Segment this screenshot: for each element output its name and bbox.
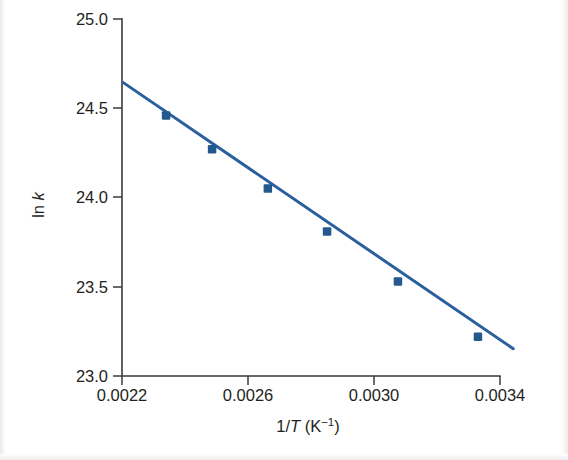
y-tick-label-24.0: 24.0 bbox=[76, 188, 108, 206]
chart-canvas: 25.0 24.5 24.0 23.5 23.0 0.0022 0.0026 0… bbox=[0, 0, 568, 460]
y-axis-label: ln k bbox=[29, 191, 47, 217]
x-axis-label-unit-close: ) bbox=[334, 417, 340, 435]
data-point-marker bbox=[264, 184, 273, 193]
x-axis-label-prefix: 1/ bbox=[276, 417, 290, 435]
data-point-marker bbox=[323, 227, 332, 236]
data-point-marker bbox=[162, 111, 171, 120]
x-tick-label-0.0026: 0.0026 bbox=[223, 386, 273, 404]
data-point-markers bbox=[162, 111, 482, 341]
x-axis-label: 1/T (K−1) bbox=[276, 416, 340, 435]
x-axis-label-unit-open: (K bbox=[300, 417, 321, 435]
x-axis-ticks bbox=[122, 376, 500, 385]
y-tick-labels: 25.0 24.5 24.0 23.5 23.0 bbox=[76, 10, 108, 385]
best-fit-line bbox=[123, 82, 513, 348]
y-axis-ticks bbox=[113, 19, 122, 376]
y-tick-label-24.5: 24.5 bbox=[76, 99, 108, 117]
data-series-group bbox=[123, 82, 513, 348]
data-point-marker bbox=[208, 145, 217, 154]
arrhenius-plot-figure: 25.0 24.5 24.0 23.5 23.0 0.0022 0.0026 0… bbox=[0, 0, 568, 460]
x-tick-label-0.0034: 0.0034 bbox=[475, 386, 525, 404]
y-axis-label-prefix: ln bbox=[29, 200, 47, 217]
y-tick-label-23.5: 23.5 bbox=[76, 278, 108, 296]
x-axis-label-unit-exponent: −1 bbox=[321, 416, 334, 428]
axis-spines bbox=[122, 19, 500, 376]
data-point-marker bbox=[474, 332, 483, 341]
x-tick-label-0.0030: 0.0030 bbox=[349, 386, 399, 404]
y-tick-label-25.0: 25.0 bbox=[76, 10, 108, 28]
y-tick-label-23.0: 23.0 bbox=[76, 367, 108, 385]
x-tick-labels: 0.0022 0.0026 0.0030 0.0034 bbox=[97, 386, 525, 404]
x-tick-label-0.0022: 0.0022 bbox=[97, 386, 147, 404]
data-point-marker bbox=[394, 277, 403, 286]
y-axis-label-variable: k bbox=[29, 191, 47, 200]
